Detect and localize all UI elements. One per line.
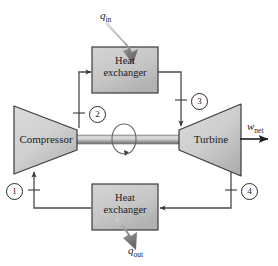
pipe-heater-to-turbine (158, 72, 181, 126)
state-marker-4: 4 (241, 183, 258, 200)
heat-exchanger-top-line1: Heat (92, 55, 158, 67)
brayton-cycle-diagram: Compressor Turbine Heat exchanger Heat e… (0, 0, 278, 266)
heat-exchanger-bottom-line2: exchanger (92, 204, 158, 216)
heat-exchanger-bottom-line1: Heat (92, 192, 158, 204)
heat-exchanger-bottom-label: Heat exchanger (92, 192, 158, 215)
w-net-label: wnet (247, 120, 264, 135)
q-in-label: qin (100, 9, 111, 24)
w-net-subscript: net (254, 126, 263, 135)
compressor-label: Compressor (14, 133, 78, 145)
drive-shaft (73, 135, 183, 144)
heat-exchanger-top-line2: exchanger (92, 67, 158, 79)
q-out-subscript: out (134, 250, 144, 259)
state-marker-1: 1 (6, 183, 23, 200)
heat-exchanger-top-label: Heat exchanger (92, 55, 158, 78)
state-marker-3: 3 (191, 93, 208, 110)
q-in-subscript: in (106, 15, 112, 24)
pipe-cooler-to-compressor (34, 172, 91, 208)
pipe-turbine-to-cooler (160, 172, 231, 208)
state-marker-2: 2 (89, 106, 106, 123)
q-out-label: qout (128, 244, 143, 259)
pipe-2-to-heater (79, 72, 91, 128)
turbine-label: Turbine (181, 133, 241, 145)
